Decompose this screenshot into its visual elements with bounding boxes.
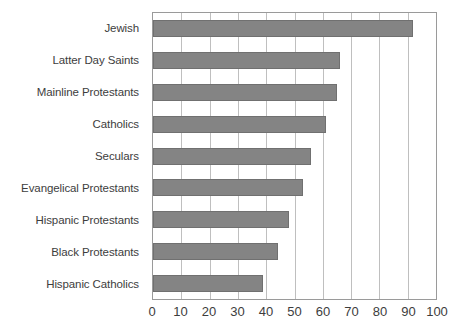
category-label: Hispanic Catholics [0, 268, 146, 300]
bar-chart: JewishLatter Day SaintsMainline Protesta… [0, 0, 453, 336]
x-tick-label: 40 [259, 304, 273, 319]
category-label-text: Black Protestants [51, 246, 139, 259]
category-label-text: Jewish [104, 22, 139, 35]
category-label: Catholics [0, 108, 146, 140]
category-label: Mainline Protestants [0, 76, 146, 108]
bar-row [153, 204, 436, 236]
category-label: Latter Day Saints [0, 44, 146, 76]
bar-row [153, 45, 436, 77]
bar [153, 179, 303, 196]
bar [153, 243, 278, 260]
x-tick-label: 10 [173, 304, 187, 319]
category-label-text: Latter Day Saints [52, 54, 139, 67]
category-axis: JewishLatter Day SaintsMainline Protesta… [0, 12, 146, 300]
category-label-text: Seculars [95, 150, 139, 163]
value-axis: 0102030405060708090100 [152, 304, 437, 328]
bar-row [153, 267, 436, 299]
bars-layer [153, 13, 436, 299]
bar [153, 52, 340, 69]
x-tick-label: 100 [426, 304, 448, 319]
bar-row [153, 77, 436, 109]
category-label: Jewish [0, 12, 146, 44]
x-tick-label: 20 [202, 304, 216, 319]
bar-row [153, 235, 436, 267]
category-label-text: Mainline Protestants [37, 86, 139, 99]
bar [153, 211, 289, 228]
category-label-text: Catholics [93, 118, 139, 131]
bar-row [153, 108, 436, 140]
x-tick-label: 0 [148, 304, 155, 319]
plot-area [152, 12, 437, 300]
category-label-text: Evangelical Protestants [21, 182, 139, 195]
x-tick-label: 30 [230, 304, 244, 319]
bar [153, 116, 326, 133]
bar [153, 20, 413, 37]
category-label-text: Hispanic Catholics [46, 278, 139, 291]
x-tick-label: 90 [401, 304, 415, 319]
category-label: Seculars [0, 140, 146, 172]
x-tick-label: 60 [316, 304, 330, 319]
x-tick-label: 70 [344, 304, 358, 319]
bar-row [153, 140, 436, 172]
bar [153, 275, 263, 292]
x-tick-label: 80 [373, 304, 387, 319]
bar-row [153, 13, 436, 45]
category-label: Evangelical Protestants [0, 172, 146, 204]
bar-row [153, 172, 436, 204]
x-tick-label: 50 [287, 304, 301, 319]
category-label: Hispanic Protestants [0, 204, 146, 236]
category-label-text: Hispanic Protestants [36, 214, 139, 227]
bar [153, 148, 311, 165]
bar [153, 84, 337, 101]
category-label: Black Protestants [0, 236, 146, 268]
